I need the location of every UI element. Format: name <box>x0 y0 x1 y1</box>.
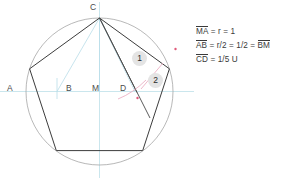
point-label-d: D <box>120 83 126 93</box>
segment-overbar-ma: MA <box>196 26 208 37</box>
point-label-a: A <box>7 83 13 93</box>
segment-overbar-cd: CD <box>196 54 208 65</box>
formula-line-1: MA = r = 1 <box>196 25 294 39</box>
chord-lines-group <box>100 18 151 118</box>
chord-c-to-e2-ray <box>100 18 151 118</box>
badge-2: 2 <box>148 73 163 88</box>
formula-line-3: CD = 1/5 U <box>196 53 294 67</box>
formula-line-2: AB = r/2 = 1/2 = BM <box>196 39 294 53</box>
formula-line-2-mid: = r/2 = 1/2 = <box>207 41 257 50</box>
formula-line-3-rest: = 1/5 U <box>208 55 238 64</box>
marker-lower <box>136 97 138 99</box>
formula-line-1-rest: = r = 1 <box>208 27 235 36</box>
formula-annotations: MA = r = 1 AB = r/2 = 1/2 = BM CD = 1/5 … <box>196 25 294 67</box>
construction-c-to-b <box>57 18 100 92</box>
marker-upper-right <box>174 48 176 50</box>
badge-1: 1 <box>132 51 147 66</box>
segment-overbar-ab: AB <box>196 40 207 51</box>
segment-overbar-bm: BM <box>258 40 270 51</box>
point-label-m: M <box>92 83 99 93</box>
point-label-c: C <box>90 2 96 12</box>
diagram-canvas: CABMD 12 MA = r = 1 AB = r/2 = 1/2 = BM … <box>0 0 295 179</box>
point-label-b: B <box>66 83 72 93</box>
